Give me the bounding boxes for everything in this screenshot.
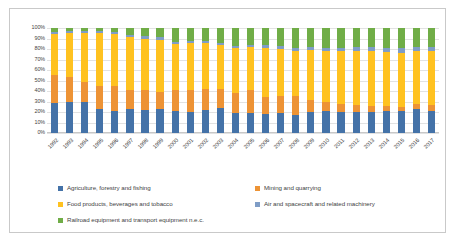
bar-segment[interactable] [277,28,284,46]
bar-segment[interactable] [292,51,299,96]
bar-segment[interactable] [383,111,390,133]
bar-column[interactable] [303,28,318,133]
bar-segment[interactable] [383,28,390,48]
bar-segment[interactable] [141,110,148,133]
bar-segment[interactable] [81,102,88,134]
bar-segment[interactable] [368,112,375,133]
bar-segment[interactable] [353,105,360,112]
bar-segment[interactable] [202,110,209,133]
bar-segment[interactable] [126,28,133,35]
bar-segment[interactable] [247,113,254,133]
bar-segment[interactable] [141,39,148,90]
bar-segment[interactable] [337,104,344,112]
bar-segment[interactable] [81,33,88,81]
stacked-bar[interactable] [202,28,209,133]
bar-segment[interactable] [232,48,239,93]
bar-segment[interactable] [232,113,239,133]
bar-segment[interactable] [322,28,329,48]
bar-column[interactable] [137,28,152,133]
bar-segment[interactable] [202,89,209,110]
bar-segment[interactable] [262,97,269,114]
legend-item[interactable]: Air and spacecraft and related machinery [255,201,375,207]
stacked-bar[interactable] [66,28,73,133]
bar-segment[interactable] [172,111,179,133]
bar-column[interactable] [122,28,137,133]
bar-column[interactable] [107,28,122,133]
bar-segment[interactable] [262,114,269,133]
stacked-bar[interactable] [247,28,254,133]
bar-column[interactable] [424,28,439,133]
bar-segment[interactable] [413,109,420,133]
bar-column[interactable] [183,28,198,133]
bar-segment[interactable] [66,33,73,77]
bar-segment[interactable] [337,112,344,133]
bar-column[interactable] [364,28,379,133]
stacked-bar[interactable] [353,28,360,133]
bar-segment[interactable] [428,51,435,105]
bar-segment[interactable] [277,49,284,96]
bar-column[interactable] [409,28,424,133]
bar-segment[interactable] [307,112,314,133]
bar-segment[interactable] [156,40,163,93]
bar-segment[interactable] [322,111,329,133]
bar-segment[interactable] [96,86,103,109]
bar-segment[interactable] [262,48,269,97]
stacked-bar[interactable] [413,28,420,133]
stacked-bar[interactable] [156,28,163,133]
bar-segment[interactable] [307,28,314,47]
stacked-bar[interactable] [337,28,344,133]
stacked-bar[interactable] [292,28,299,133]
bar-segment[interactable] [111,111,118,133]
bar-segment[interactable] [337,28,344,48]
bar-segment[interactable] [156,28,163,37]
bar-segment[interactable] [141,28,148,36]
bar-segment[interactable] [353,51,360,105]
bar-segment[interactable] [247,47,254,90]
stacked-bar[interactable] [217,28,224,133]
bar-segment[interactable] [66,102,73,134]
bar-column[interactable] [62,28,77,133]
stacked-bar[interactable] [368,28,375,133]
bar-column[interactable] [394,28,409,133]
bar-segment[interactable] [292,28,299,48]
bar-segment[interactable] [81,82,88,102]
bar-segment[interactable] [232,93,239,113]
bar-segment[interactable] [51,103,58,133]
stacked-bar[interactable] [187,28,194,133]
bar-column[interactable] [333,28,348,133]
stacked-bar[interactable] [126,28,133,133]
bar-column[interactable] [243,28,258,133]
bar-segment[interactable] [187,43,194,90]
bar-segment[interactable] [383,52,390,106]
bar-column[interactable] [258,28,273,133]
bar-segment[interactable] [247,90,254,113]
bar-segment[interactable] [172,90,179,111]
bar-segment[interactable] [322,51,329,101]
legend-item[interactable]: Mining and quarrying [255,185,321,191]
bar-segment[interactable] [262,28,269,45]
bar-column[interactable] [228,28,243,133]
bar-segment[interactable] [141,90,148,110]
bar-segment[interactable] [51,75,58,102]
bar-segment[interactable] [51,34,58,75]
bar-column[interactable] [198,28,213,133]
bar-column[interactable] [47,28,62,133]
bar-segment[interactable] [217,28,224,43]
bar-segment[interactable] [247,28,254,45]
bar-segment[interactable] [202,28,209,41]
legend-item[interactable]: Railroad equipment and transport equipme… [58,217,204,223]
bar-segment[interactable] [96,33,103,86]
bar-segment[interactable] [292,115,299,133]
stacked-bar[interactable] [141,28,148,133]
bar-segment[interactable] [307,50,314,100]
bar-segment[interactable] [126,109,133,133]
bar-column[interactable] [379,28,394,133]
stacked-bar[interactable] [398,28,405,133]
bar-segment[interactable] [66,77,73,101]
stacked-bar[interactable] [322,28,329,133]
bar-segment[interactable] [413,51,420,104]
stacked-bar[interactable] [383,28,390,133]
bar-segment[interactable] [202,43,209,89]
bar-segment[interactable] [337,51,344,104]
stacked-bar[interactable] [96,28,103,133]
